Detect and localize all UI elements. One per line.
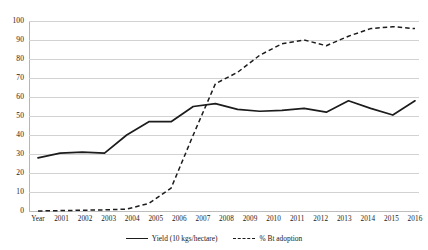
y-tick-label-20: 20 [0,168,24,177]
y-tick-label-100: 100 [0,16,24,25]
dashed-line-key-icon [233,238,255,239]
legend-item-bt-adoption: % Bt adoption [233,234,302,243]
series-bt-adoption [38,27,415,211]
y-tick-label-90: 90 [0,35,24,44]
legend-label-bt-adoption: % Bt adoption [259,234,302,243]
y-tick-label-50: 50 [0,111,24,120]
y-tick-label-30: 30 [0,149,24,158]
y-tick-label-40: 40 [0,130,24,139]
x-tick-label-2016: 2016 [395,215,428,223]
legend-label-yield: Yield (10 kgs/hectare) [152,234,218,243]
series-layer [0,0,428,250]
y-tick-label-60: 60 [0,92,24,101]
legend-item-yield: Yield (10 kgs/hectare) [126,234,218,243]
y-tick-label-70: 70 [0,73,24,82]
y-tick-label-10: 10 [0,187,24,196]
y-tick-label-0: 0 [0,206,24,215]
line-chart: 0102030405060708090100 Year2001200220032… [0,0,428,250]
y-tick-label-80: 80 [0,54,24,63]
series-yield [38,101,415,158]
chart-legend: Yield (10 kgs/hectare) % Bt adoption [0,234,428,243]
solid-line-key-icon [126,238,148,239]
